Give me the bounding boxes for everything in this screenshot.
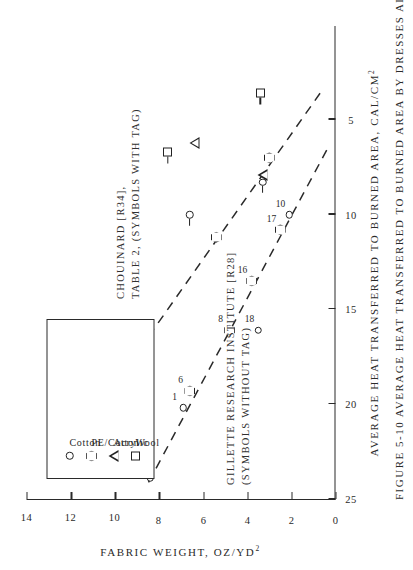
marker-triangle <box>189 137 199 149</box>
annotation-gillette-line1: GILLETTE RESEARCH INSTITUTE [R28] <box>222 252 237 485</box>
heat-axis-tick-label: 15 <box>345 304 356 315</box>
annotation-chouinard-line2: TABLE 2, (SYMBOLS WITH TAG) <box>127 108 142 299</box>
fabric-weight-axis-tick-label: 12 <box>64 512 75 523</box>
marker-triangle <box>257 169 267 181</box>
y-axis-title-sup: 2 <box>255 544 260 553</box>
heat-axis-tick <box>328 308 335 309</box>
x-axis-title: AVERAGE HEAT TRANSFERRED TO BURNED AREA,… <box>366 69 380 457</box>
heat-axis-tick-label: 20 <box>345 399 356 410</box>
fabric-weight-axis-tick <box>247 493 248 500</box>
marker-circle <box>285 211 293 219</box>
data-point-label: 6 <box>178 375 183 385</box>
marker-hexagon <box>86 451 97 462</box>
legend-item: Cotton <box>61 448 77 464</box>
marker-square <box>163 148 172 157</box>
marker-square <box>255 89 264 98</box>
heat-axis-tick <box>328 403 335 404</box>
fabric-weight-axis-tick-label: 14 <box>20 512 31 523</box>
marker-square <box>131 452 140 461</box>
heat-axis-tick-label: 5 <box>348 114 354 125</box>
legend-item: Acrylic <box>105 448 121 464</box>
fabric-weight-axis-tick <box>26 493 27 500</box>
data-point-label: 10 <box>275 199 285 209</box>
marker-triangle <box>108 450 118 462</box>
fabric-weight-axis-tick-label: 6 <box>200 515 206 526</box>
legend-symbol <box>83 448 99 464</box>
fabric-weight-axis-tick-label: 2 <box>288 515 294 526</box>
marker-circle <box>186 211 194 219</box>
heat-axis-tick <box>328 118 335 119</box>
fabric-weight-axis-tick-label: 10 <box>109 512 120 523</box>
figure-caption: FIGURE 5-10 AVERAGE HEAT TRANSFERRED TO … <box>392 0 404 500</box>
marker-circle <box>254 327 262 335</box>
legend-symbol <box>127 448 143 464</box>
legend-label: Wool <box>135 437 159 448</box>
marker-circle <box>179 404 187 412</box>
fabric-weight-axis-tick-label: 4 <box>244 515 250 526</box>
marker-tag <box>259 98 260 105</box>
fabric-weight-axis-tick <box>114 493 115 500</box>
marker-tag <box>189 218 190 225</box>
legend-symbol <box>105 448 121 464</box>
fabric-weight-axis-tick <box>335 493 336 500</box>
figure-stage: 51015202502468101214 416816181710 GILLET… <box>0 0 413 570</box>
annotation-gillette: GILLETTE RESEARCH INSTITUTE [R28] (SYMBO… <box>222 252 252 485</box>
x-axis-title-sup: 2 <box>366 69 375 74</box>
marker-circle <box>65 452 73 460</box>
marker-tag <box>167 157 168 164</box>
annotation-chouinard: CHOUINARD [R34], TABLE 2, (SYMBOLS WITH … <box>112 108 142 299</box>
plot-area: 51015202502468101214 416816181710 GILLET… <box>26 26 335 500</box>
legend-item: Wool <box>127 448 143 464</box>
y-axis-title-text: FABRIC WEIGHT, OZ/YD <box>100 546 255 558</box>
fabric-weight-axis-tick-label: 8 <box>156 515 162 526</box>
fabric-weight-axis-tick <box>70 493 71 500</box>
fabric-weight-axis-tick-label: 0 <box>332 515 338 526</box>
y-axis-title: FABRIC WEIGHT, OZ/YD2 <box>100 544 261 558</box>
fabric-weight-axis-tick <box>291 493 292 500</box>
fabric-weight-axis-tick <box>203 493 204 500</box>
annotation-gillette-line2: (SYMBOLS WITHOUT TAG) <box>237 252 252 485</box>
annotation-chouinard-line1: CHOUINARD [R34], <box>112 108 127 299</box>
data-point-label: 17 <box>266 214 276 224</box>
heat-axis-tick <box>328 498 335 499</box>
heat-axis-tick-label: 25 <box>345 494 356 505</box>
marker-tag <box>261 186 262 193</box>
fabric-weight-axis-tick <box>158 493 159 500</box>
legend-item: PE/Cotton <box>83 448 99 464</box>
legend-symbol <box>61 448 77 464</box>
x-axis-title-text: AVERAGE HEAT TRANSFERRED TO BURNED AREA,… <box>368 74 380 457</box>
data-point-label: 1 <box>171 392 176 402</box>
heat-axis-tick-label: 10 <box>345 209 356 220</box>
heat-axis-tick <box>328 213 335 214</box>
legend: CottonPE/CottonAcrylicWool <box>46 319 154 479</box>
